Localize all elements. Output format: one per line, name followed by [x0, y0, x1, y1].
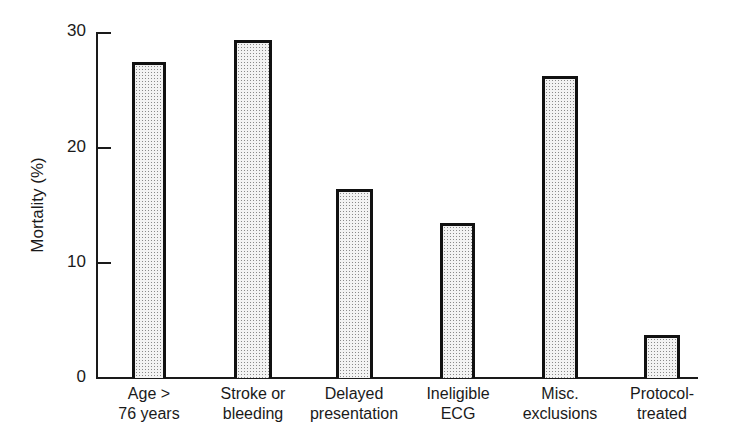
- y-tick-label-30: 30: [67, 22, 86, 40]
- bar-ineligible-ecg: [440, 223, 475, 378]
- x-label-line: Age >: [89, 384, 209, 404]
- bar-age-over-76: [132, 62, 166, 378]
- x-label-line: presentation: [294, 404, 414, 424]
- bar-chart: Mortality (%) 30 20 10 0 Age > 76 years …: [0, 0, 736, 447]
- y-axis-title: Mortality (%): [28, 157, 48, 252]
- x-label-protocol-treated: Protocol- treated: [602, 384, 722, 424]
- x-label-line: Protocol-: [602, 384, 722, 404]
- x-label-age-over-76: Age > 76 years: [89, 384, 209, 424]
- x-label-line: Delayed: [294, 384, 414, 404]
- x-label-line: treated: [602, 404, 722, 424]
- y-tick-label-20: 20: [67, 138, 86, 156]
- y-axis-line: [96, 32, 98, 379]
- x-label-line: 76 years: [89, 404, 209, 424]
- bar-misc-exclusions: [542, 76, 578, 378]
- x-axis-line: [96, 377, 698, 379]
- y-tick-label-10: 10: [67, 253, 86, 271]
- y-tick-30: [97, 32, 111, 34]
- y-tick-20: [97, 147, 111, 149]
- bar-delayed-presentation: [336, 189, 373, 378]
- y-tick-label-0: 0: [77, 368, 86, 386]
- bar-protocol-treated: [644, 335, 680, 378]
- y-tick-10: [97, 262, 111, 264]
- bar-stroke-or-bleeding: [234, 40, 272, 378]
- x-label-delayed-presentation: Delayed presentation: [294, 384, 414, 424]
